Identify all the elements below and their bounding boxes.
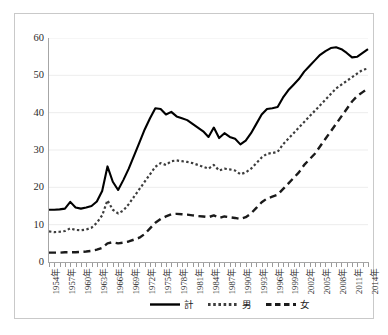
x-tick xyxy=(214,263,215,267)
x-tick xyxy=(155,263,156,267)
x-tick xyxy=(256,263,257,267)
x-tick xyxy=(283,263,284,267)
x-tick xyxy=(310,263,311,267)
x-tick xyxy=(150,263,151,267)
x-tick-label: 2002年 xyxy=(307,268,316,294)
x-tick xyxy=(145,263,146,267)
x-tick xyxy=(166,263,167,267)
x-tick xyxy=(81,263,82,267)
x-tick xyxy=(76,263,77,267)
x-tick xyxy=(129,263,130,267)
legend-label: 計 xyxy=(184,300,194,309)
x-tick xyxy=(134,263,135,267)
x-tick xyxy=(352,263,353,267)
x-tick xyxy=(262,263,263,267)
legend-label: 女 xyxy=(300,300,310,309)
x-tick xyxy=(203,263,204,267)
x-tick xyxy=(54,263,55,267)
y-tick-label: 60 xyxy=(4,33,44,43)
x-tick xyxy=(139,263,140,267)
x-tick xyxy=(294,263,295,267)
legend-swatch-icon xyxy=(150,300,180,309)
x-tick xyxy=(161,263,162,267)
series-line-男 xyxy=(49,69,368,233)
x-tick-label: 1975年 xyxy=(164,268,173,294)
legend-item-女[interactable]: 女 xyxy=(266,300,310,309)
x-tick xyxy=(325,263,326,267)
x-tick-label: 1969年 xyxy=(132,268,141,294)
x-tick xyxy=(224,263,225,267)
x-tick-label: 1978年 xyxy=(180,268,189,294)
x-tick-label: 2005年 xyxy=(323,268,332,294)
x-tick-label: 1981年 xyxy=(196,268,205,294)
x-tick-label: 1957年 xyxy=(68,268,77,294)
x-tick xyxy=(251,263,252,267)
x-tick xyxy=(341,263,342,267)
x-tick-label: 1960年 xyxy=(84,268,93,294)
x-tick xyxy=(315,263,316,267)
y-tick-label: 30 xyxy=(4,145,44,155)
x-tick xyxy=(368,263,369,267)
x-tick xyxy=(70,263,71,267)
x-tick xyxy=(235,263,236,267)
x-tick xyxy=(230,263,231,267)
x-tick xyxy=(198,263,199,267)
x-tick-label: 1954年 xyxy=(52,268,61,294)
x-tick xyxy=(107,263,108,267)
y-tick-label: 40 xyxy=(4,108,44,118)
chart-figure: 0102030405060 1954年1957年1960年1963年1966年1… xyxy=(0,0,388,335)
legend-swatch-icon xyxy=(266,300,296,309)
x-tick xyxy=(320,263,321,267)
x-tick xyxy=(113,263,114,267)
x-tick xyxy=(60,263,61,267)
x-tick-label: 1966年 xyxy=(116,268,125,294)
x-tick xyxy=(347,263,348,267)
legend-label: 男 xyxy=(242,300,252,309)
x-tick-label: 1993年 xyxy=(260,268,269,294)
x-tick xyxy=(65,263,66,267)
x-tick xyxy=(336,263,337,267)
legend-item-計[interactable]: 計 xyxy=(150,300,194,309)
series-line-計 xyxy=(49,47,368,209)
x-tick-label: 1963年 xyxy=(100,268,109,294)
x-tick-label: 1987年 xyxy=(228,268,237,294)
x-tick xyxy=(278,263,279,267)
x-tick xyxy=(92,263,93,267)
x-tick xyxy=(267,263,268,267)
legend-item-男[interactable]: 男 xyxy=(208,300,252,309)
x-tick xyxy=(240,263,241,267)
x-tick xyxy=(304,263,305,267)
x-tick xyxy=(177,263,178,267)
x-tick xyxy=(102,263,103,267)
x-tick xyxy=(193,263,194,267)
series-lines xyxy=(49,38,368,262)
x-tick-label: 1990年 xyxy=(244,268,253,294)
x-tick xyxy=(86,263,87,267)
x-tick xyxy=(171,263,172,267)
x-tick xyxy=(182,263,183,267)
x-tick-label: 1999年 xyxy=(291,268,300,294)
x-tick xyxy=(123,263,124,267)
x-tick xyxy=(209,263,210,267)
x-tick xyxy=(49,263,50,267)
series-line-女 xyxy=(49,88,368,252)
x-tick xyxy=(118,263,119,267)
legend-swatch-icon xyxy=(208,300,238,309)
x-tick xyxy=(363,263,364,267)
x-tick-label: 1972年 xyxy=(148,268,157,294)
x-tick xyxy=(187,263,188,267)
y-tick-label: 20 xyxy=(4,182,44,192)
x-tick xyxy=(357,263,358,267)
plot-area xyxy=(49,38,368,262)
x-tick xyxy=(331,263,332,267)
y-tick-label: 10 xyxy=(4,220,44,230)
x-tick-label: 2011年 xyxy=(355,268,364,294)
legend: 計男女 xyxy=(150,296,350,312)
y-axis-labels: 0102030405060 xyxy=(2,0,44,335)
x-tick-label: 2008年 xyxy=(339,268,348,294)
y-tick-label: 50 xyxy=(4,70,44,80)
x-tick xyxy=(299,263,300,267)
x-tick xyxy=(272,263,273,267)
x-tick xyxy=(219,263,220,267)
x-tick-label: 2014年 xyxy=(371,268,380,294)
